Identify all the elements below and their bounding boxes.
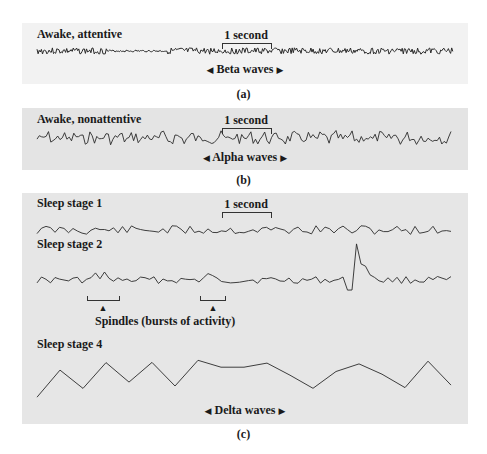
figure-label-b: (b) xyxy=(0,173,487,188)
panel-sleep-stages: Sleep stage 1 1 second Sleep stage 2 ▲ ▲… xyxy=(22,193,468,424)
panel-awake-nonattentive: Awake, nonattentive 1 second ◀ Alpha wav… xyxy=(22,108,468,170)
figure-label-c: (c) xyxy=(0,427,487,442)
arrow-right-icon: ▶ xyxy=(277,65,284,75)
wave-name: Delta waves xyxy=(215,403,276,417)
arrow-right-icon: ▶ xyxy=(280,153,287,163)
wave-label: ◀ Beta waves ▶ xyxy=(22,62,468,77)
wave-name: Alpha waves xyxy=(212,150,277,164)
wave-label: ◀ Alpha waves ▶ xyxy=(22,150,468,165)
wave-label: ◀ Delta waves ▶ xyxy=(22,403,468,418)
figure-label-a: (a) xyxy=(0,87,487,102)
arrow-left-icon: ◀ xyxy=(207,65,214,75)
delta-wave-trace xyxy=(37,360,451,397)
wave-name: Beta waves xyxy=(217,62,274,76)
panel-awake-attentive: Awake, attentive 1 second ◀ Beta waves ▶ xyxy=(22,23,468,84)
arrow-left-icon: ◀ xyxy=(203,153,210,163)
arrow-left-icon: ◀ xyxy=(205,406,212,416)
sleep-traces xyxy=(22,193,468,424)
stage-1-trace xyxy=(37,226,451,235)
stage-2-trace xyxy=(37,244,451,290)
arrow-right-icon: ▶ xyxy=(278,406,285,416)
